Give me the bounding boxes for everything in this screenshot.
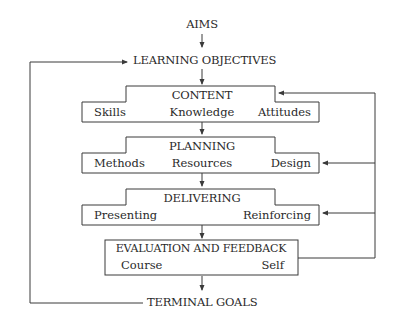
planning-item-resources: Resources xyxy=(172,158,232,170)
delivering-item-reinforcing: Reinforcing xyxy=(243,210,311,222)
content-item-skills: Skills xyxy=(94,107,126,119)
delivering-item-presenting: Presenting xyxy=(94,210,157,222)
evaluation-item-course: Course xyxy=(121,260,162,272)
content-item-knowledge: Knowledge xyxy=(170,107,235,119)
evaluation-title: EVALUATION AND FEEDBACK xyxy=(116,243,286,254)
planning-item-methods: Methods xyxy=(94,158,145,170)
delivering-title: DELIVERING xyxy=(164,193,241,205)
planning-item-design: Design xyxy=(271,158,311,170)
evaluation-item-self: Self xyxy=(261,260,284,272)
content-item-attitudes: Attitudes xyxy=(258,107,311,119)
content-title: CONTENT xyxy=(172,90,233,102)
aims-label: AIMS xyxy=(186,19,218,31)
terminal-goals-label: TERMINAL GOALS xyxy=(147,297,257,309)
learning-objectives-label: LEARNING OBJECTIVES xyxy=(133,55,276,67)
planning-title: PLANNING xyxy=(169,141,235,153)
